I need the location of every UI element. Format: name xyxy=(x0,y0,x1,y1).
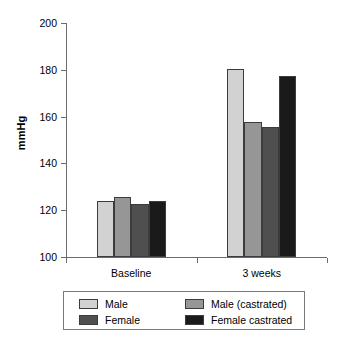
y-axis-line xyxy=(66,23,67,258)
legend-swatch-female xyxy=(79,315,98,325)
legend-row: Male Male (castrated) xyxy=(64,296,304,311)
y-axis-tick-mark xyxy=(61,210,66,211)
legend-swatch-male xyxy=(79,299,98,309)
bar-chart-figure: mmHg 100120140160180200 Baseline3 weeks … xyxy=(0,0,345,345)
bar xyxy=(149,201,166,257)
y-axis-tick-mark xyxy=(61,163,66,164)
y-axis-tick-label: 140 xyxy=(39,157,57,169)
chart-legend: Male Male (castrated) Female Female cast… xyxy=(63,291,305,330)
y-axis-tick-label: 180 xyxy=(39,64,57,76)
x-axis-category-label: Baseline xyxy=(111,267,151,279)
legend-label-female-castrated: Female castrated xyxy=(211,314,292,326)
legend-entry-male: Male xyxy=(79,296,128,311)
bar xyxy=(227,69,244,257)
bar xyxy=(279,76,296,257)
legend-label-male: Male xyxy=(105,298,128,310)
legend-entry-male-castrated: Male (castrated) xyxy=(185,296,287,311)
plot-area: 100120140160180200 Baseline3 weeks xyxy=(66,23,327,257)
legend-label-male-castrated: Male (castrated) xyxy=(211,298,287,310)
legend-swatch-male-castrated xyxy=(185,299,204,309)
bar xyxy=(262,127,279,257)
y-axis-title: mmHg xyxy=(15,103,27,163)
y-axis-tick-label: 200 xyxy=(39,17,57,29)
y-axis-tick-mark xyxy=(61,117,66,118)
y-axis-tick-label: 160 xyxy=(39,111,57,123)
y-axis-tick-mark xyxy=(61,23,66,24)
bar xyxy=(244,122,261,257)
y-axis-tick-mark xyxy=(61,70,66,71)
bar xyxy=(114,197,131,257)
legend-entry-female: Female xyxy=(79,312,140,327)
x-axis-tick-mark xyxy=(327,258,328,263)
bar xyxy=(97,201,114,257)
legend-row: Female Female castrated xyxy=(64,312,304,327)
x-axis-tick-mark xyxy=(197,258,198,263)
legend-label-female: Female xyxy=(105,314,140,326)
x-axis-tick-mark xyxy=(66,258,67,263)
y-axis-tick-label: 100 xyxy=(39,251,57,263)
legend-swatch-female-castrated xyxy=(185,315,204,325)
x-axis-category-label: 3 weeks xyxy=(242,267,281,279)
y-axis-tick-label: 120 xyxy=(39,204,57,216)
legend-entry-female-castrated: Female castrated xyxy=(185,312,292,327)
bar xyxy=(131,204,148,257)
